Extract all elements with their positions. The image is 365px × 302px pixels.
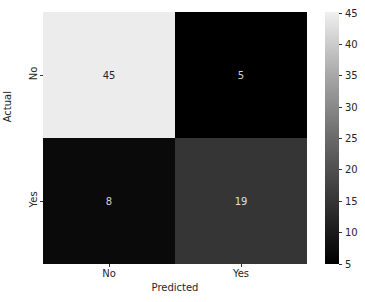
colorbar (325, 12, 339, 264)
colorbar-tick-mark (339, 107, 342, 108)
colorbar-tick-label: 25 (345, 133, 358, 144)
colorbar-tick-mark (339, 264, 342, 265)
heatmap-cell: 8 (43, 138, 175, 264)
colorbar-tick-label: 15 (345, 195, 358, 206)
y-axis-label: Actual (2, 91, 13, 122)
colorbar-tick-mark (339, 201, 342, 202)
heatmap-cell: 45 (43, 12, 175, 138)
colorbar-tick-mark (339, 138, 342, 139)
x-tick-mark (109, 264, 110, 267)
x-tick-label: No (102, 268, 116, 279)
x-tick-label: Yes (233, 268, 249, 279)
y-tick-mark (40, 201, 43, 202)
colorbar-tick-label: 45 (345, 7, 358, 18)
x-axis-label: Predicted (152, 282, 199, 293)
colorbar-tick-label: 35 (345, 70, 358, 81)
colorbar-tick-mark (339, 169, 342, 170)
colorbar-tick-label: 40 (345, 38, 358, 49)
colorbar-tick-label: 5 (345, 258, 351, 269)
y-tick-label: Yes (28, 192, 39, 208)
colorbar-tick-mark (339, 13, 342, 14)
colorbar-tick-mark (339, 232, 342, 233)
y-tick-mark (40, 75, 43, 76)
colorbar-tick-label: 10 (345, 227, 358, 238)
heatmap-cell: 5 (175, 12, 307, 138)
y-tick-label: No (28, 66, 39, 82)
x-tick-mark (241, 264, 242, 267)
colorbar-tick-label: 20 (345, 164, 358, 175)
colorbar-tick-mark (339, 75, 342, 76)
heatmap: 455819 (43, 12, 307, 264)
heatmap-cell: 19 (175, 138, 307, 264)
colorbar-tick-label: 30 (345, 101, 358, 112)
colorbar-tick-mark (339, 44, 342, 45)
